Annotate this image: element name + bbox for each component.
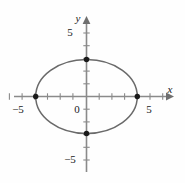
x-tick-label-5: 5 [146,103,152,115]
y-tick-label-minus-5: −5 [64,153,76,165]
origin-label: 0 [74,103,80,115]
vertex-point-right [135,94,140,99]
x-axis-label: x [167,83,173,95]
covertex-point-top [84,57,89,62]
covertex-point-bottom [84,131,89,136]
coordinate-plane-svg: x y 5 −5 5 −5 0 [0,0,185,183]
x-tick-label-minus-5: −5 [12,103,24,115]
y-axis-arrow-icon [83,16,91,24]
ellipse-graph-figure: x y 5 −5 5 −5 0 [0,0,185,183]
vertex-point-left [33,94,38,99]
y-tick-label-5: 5 [67,26,73,38]
y-axis-label: y [75,12,81,24]
